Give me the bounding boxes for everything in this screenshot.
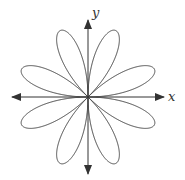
- y-axis-label: y: [91, 5, 100, 20]
- x-axis-label: x: [168, 89, 176, 104]
- rose-curve-diagram: x y: [0, 0, 185, 180]
